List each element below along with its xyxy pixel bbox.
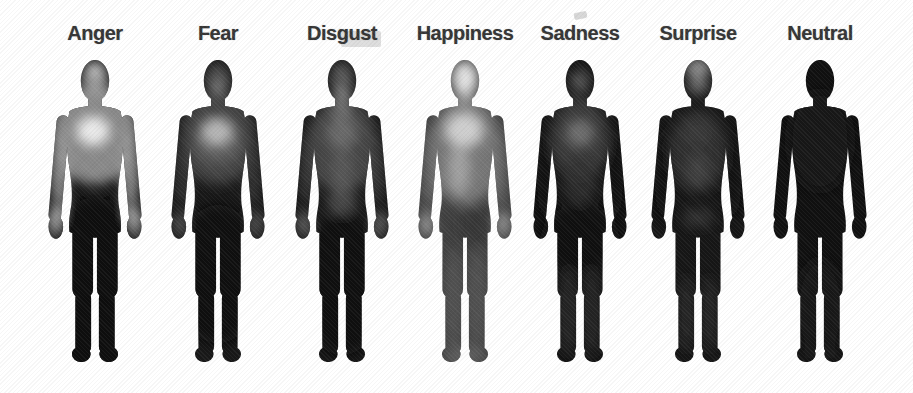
- emotion-label: Surprise: [638, 22, 758, 45]
- body-heatmap-anger: [46, 52, 144, 368]
- emotion-label: Neutral: [760, 22, 880, 45]
- body-heatmap-happiness: [416, 52, 514, 368]
- emotion-column-sadness: Sadness: [520, 0, 640, 393]
- body-heatmap-sadness: [531, 52, 629, 368]
- emotion-label: Disgust: [282, 22, 402, 45]
- emotion-label: Anger: [35, 22, 155, 45]
- emotion-label: Fear: [158, 22, 278, 45]
- emotion-label: Sadness: [520, 22, 640, 45]
- emotion-label: Happiness: [405, 22, 525, 45]
- body-heatmap-surprise: [649, 52, 747, 368]
- emotion-column-surprise: Surprise: [638, 0, 758, 393]
- body-heatmap-fear: [169, 52, 267, 368]
- emotion-column-disgust: Disgust: [282, 0, 402, 393]
- emotion-column-fear: Fear: [158, 0, 278, 393]
- figure-canvas: Anger Fear Disgust Happiness Sadness Sur…: [0, 0, 913, 393]
- emotion-column-happiness: Happiness: [405, 0, 525, 393]
- emotion-column-neutral: Neutral: [760, 0, 880, 393]
- emotion-column-anger: Anger: [35, 0, 155, 393]
- body-heatmap-neutral: [771, 52, 869, 368]
- body-heatmap-disgust: [293, 52, 391, 368]
